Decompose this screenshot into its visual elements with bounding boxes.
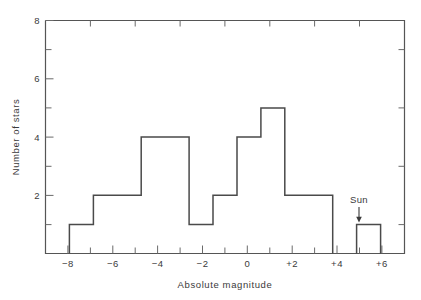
y-tick-label-6: 6 bbox=[34, 73, 40, 84]
x-tick-label-p6: +6 bbox=[376, 258, 388, 269]
sun-arrow-icon bbox=[356, 207, 362, 223]
chart-canvas: 8 6 4 2 Number of stars bbox=[0, 0, 421, 300]
y-tick-label-4: 4 bbox=[34, 132, 40, 143]
x-tick-label-m4: −4 bbox=[152, 258, 164, 269]
x-tick-label-m6: −6 bbox=[107, 258, 119, 269]
x-axis-ticks bbox=[68, 21, 405, 254]
y-axis-tick-labels: 8 6 4 2 bbox=[34, 15, 40, 201]
x-tick-label-p4: +4 bbox=[331, 258, 343, 269]
x-tick-label-m2: −2 bbox=[197, 258, 209, 269]
y-tick-label-2: 2 bbox=[34, 190, 40, 201]
histogram-outline bbox=[69, 108, 380, 254]
y-axis-ticks bbox=[46, 21, 54, 225]
histogram-figure: 8 6 4 2 Number of stars bbox=[0, 0, 421, 300]
x-tick-label-0: 0 bbox=[244, 258, 250, 269]
y-axis-title: Number of stars bbox=[10, 99, 21, 176]
y-tick-label-8: 8 bbox=[34, 15, 40, 26]
sun-annotation: Sun bbox=[350, 194, 368, 223]
sun-annotation-label: Sun bbox=[350, 194, 368, 205]
x-axis-title: Absolute magnitude bbox=[178, 279, 273, 290]
x-tick-label-p2: +2 bbox=[286, 258, 298, 269]
plot-frame bbox=[46, 21, 405, 254]
x-tick-label-m8: −8 bbox=[62, 258, 74, 269]
x-axis-tick-labels: −8 −6 −4 −2 0 +2 +4 +6 bbox=[62, 258, 388, 269]
